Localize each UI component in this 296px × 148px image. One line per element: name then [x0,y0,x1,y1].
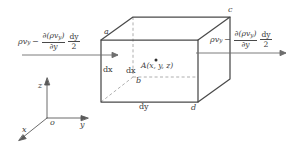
vertex-label-c: c [228,6,232,14]
outflow-arrow-head [280,50,286,55]
outflow-half-dy-denominator: 2 [263,41,270,49]
z-axis-label: z [38,82,42,90]
cube-geometry [0,0,296,148]
outflow-flux-expression: ρvy − ∂(ρvy) ∂y dy 2 [210,30,273,49]
inflow-base-subscript: y [27,39,30,45]
inflow-derivative-fraction: ∂(ρvy) ∂y [42,32,66,51]
outflow-operator: − [224,35,231,44]
dimension-label-dy-bottom: dy [139,103,149,111]
inflow-arrow-head [112,52,118,57]
vertex-label-d: d [191,104,196,112]
inflow-half-dy-fraction: dy 2 [68,33,79,51]
outflow-base-symbol: ρv [210,35,219,44]
y-axis-label: y [80,121,85,129]
outflow-half-dy-fraction: dy 2 [260,31,271,49]
center-point-label: A(x, y, z) [141,62,173,70]
inflow-derivative-numerator-close: ) [61,31,64,40]
outflow-derivative-numerator-close: ) [253,29,256,38]
coordinate-axes [19,78,88,141]
inflow-derivative-numerator: ∂(ρvy) [42,32,66,41]
outflow-base-subscript: y [219,37,222,43]
vertex-label-a: a [104,28,109,36]
inflow-half-dy-numerator: dy [68,33,79,41]
vertex-label-b: b [136,77,141,85]
inflow-half-dy-denominator: 2 [71,43,78,51]
origin-label: o [50,119,55,127]
inflow-flux-expression: ρvy − ∂(ρvy) ∂y dy 2 [18,32,81,51]
dimension-label-dx-inner: dx [126,67,136,75]
inflow-derivative-denominator: ∂y [48,43,58,51]
control-volume-figure: ρvy − ∂(ρvy) ∂y dy 2 ρvy − ∂(ρvy) ∂y dy … [0,0,296,148]
z-axis-arrowhead [45,78,50,85]
flux-arrows [22,50,286,57]
outflow-derivative-numerator: ∂(ρvy) [234,30,258,39]
dimension-label-dx-left: dx [103,66,113,74]
front-face-edges [101,40,198,102]
hidden-edge-diagonal [101,77,133,102]
outflow-derivative-fraction: ∂(ρvy) ∂y [234,30,258,49]
outflow-derivative-denominator: ∂y [240,41,250,49]
inflow-operator: − [32,37,39,46]
outflow-half-dy-numerator: dy [260,31,271,39]
x-axis-label: x [22,126,27,134]
inflow-base-symbol: ρv [18,37,27,46]
